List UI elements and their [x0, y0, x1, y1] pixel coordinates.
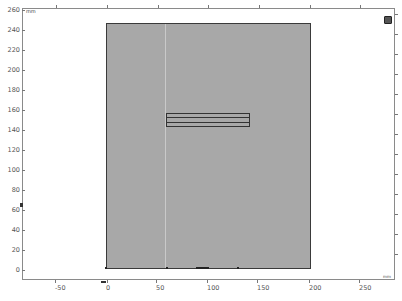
y-tick-label: 200	[2, 66, 20, 74]
y-tick-label: 0	[2, 266, 20, 274]
unit-label-bottom: mm	[383, 274, 391, 279]
construction-line	[165, 24, 166, 268]
y-tick-label: 180	[2, 86, 20, 94]
y-tick-label: 80	[2, 186, 20, 194]
y-tick	[22, 130, 25, 131]
y-tick-label: 60	[2, 206, 20, 214]
y-tick-right	[395, 14, 398, 15]
y-tick	[22, 190, 25, 191]
x-tick-label: 50	[156, 284, 164, 292]
x-tick	[359, 280, 360, 283]
x-axis-marker-icon	[101, 281, 106, 283]
y-tick-label: 260	[2, 6, 20, 14]
y-tick-label: 100	[2, 166, 20, 174]
y-tick-right	[395, 34, 398, 35]
y-tick-label: 220	[2, 46, 20, 54]
x-tick	[107, 280, 108, 283]
y-tick-label: 20	[2, 246, 20, 254]
x-tick-label: 0	[106, 284, 110, 292]
x-tick-top	[360, 5, 361, 8]
y-tick	[22, 50, 25, 51]
y-tick	[22, 210, 25, 211]
inner-rectangle-edge[interactable]	[166, 122, 250, 123]
x-tick	[156, 280, 157, 283]
x-tick	[309, 280, 310, 283]
x-tick-label: 250	[359, 284, 371, 292]
y-tick-right	[395, 154, 398, 155]
y-tick-label: 160	[2, 106, 20, 114]
y-axis-marker-icon	[20, 203, 23, 207]
inner-rectangle-edge[interactable]	[166, 117, 250, 118]
x-tick-top	[310, 5, 311, 8]
y-tick	[22, 70, 25, 71]
x-tick	[207, 280, 208, 283]
x-tick-top	[107, 5, 108, 8]
vertex-point[interactable]	[237, 267, 239, 269]
y-tick	[22, 170, 25, 171]
y-tick	[22, 150, 25, 151]
y-tick-label: 40	[2, 226, 20, 234]
y-tick-right	[395, 114, 398, 115]
y-tick-right	[395, 214, 398, 215]
x-tick-top	[208, 5, 209, 8]
y-tick-right	[395, 134, 398, 135]
y-tick-right	[395, 194, 398, 195]
y-tick	[22, 30, 25, 31]
y-tick	[22, 110, 25, 111]
y-tick	[22, 230, 25, 231]
y-tick-label: 120	[2, 146, 20, 154]
domain-rectangle[interactable]	[106, 23, 311, 269]
y-tick	[22, 10, 25, 11]
y-tick	[22, 250, 25, 251]
y-tick-right	[395, 254, 398, 255]
x-tick-label: 200	[309, 284, 321, 292]
y-tick-label: 140	[2, 126, 20, 134]
x-tick-top	[259, 5, 260, 8]
x-tick-label: -50	[55, 284, 66, 292]
selected-edge[interactable]	[196, 267, 209, 269]
vertex-point[interactable]	[166, 267, 168, 269]
x-tick-label: 100	[207, 284, 219, 292]
x-tick	[257, 280, 258, 283]
y-tick-right	[395, 94, 398, 95]
view-toggle-icon[interactable]	[384, 16, 392, 24]
x-tick-label: 150	[257, 284, 269, 292]
y-tick-right	[395, 54, 398, 55]
unit-label-top: mm	[26, 8, 36, 14]
x-tick-top	[56, 5, 57, 8]
x-tick-top	[158, 5, 159, 8]
vertex-point[interactable]	[105, 267, 107, 269]
y-tick-label: 240	[2, 26, 20, 34]
y-tick-right	[395, 74, 398, 75]
y-tick	[22, 90, 25, 91]
inner-rectangle[interactable]	[166, 113, 250, 127]
y-tick-right	[395, 174, 398, 175]
y-tick-right	[395, 234, 398, 235]
y-tick	[22, 270, 25, 271]
x-tick	[55, 280, 56, 283]
